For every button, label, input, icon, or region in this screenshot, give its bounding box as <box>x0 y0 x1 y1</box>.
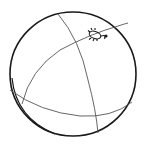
ball-drawing <box>0 0 146 145</box>
illustration-canvas: ball with seam lines and small bug <box>0 0 146 145</box>
seam-lines <box>10 14 132 133</box>
ball-outline-icon <box>10 12 136 136</box>
